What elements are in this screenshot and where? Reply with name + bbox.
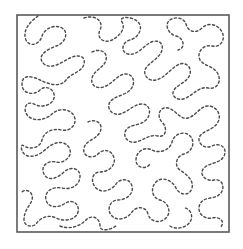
stipple-pattern-diagram [0, 0, 243, 249]
